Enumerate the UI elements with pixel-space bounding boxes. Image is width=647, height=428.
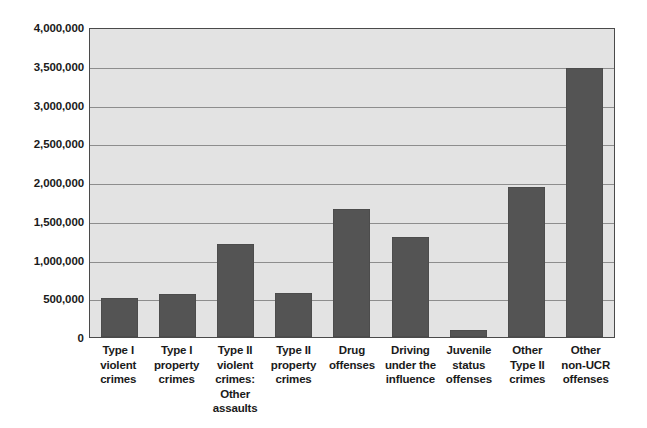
x-axis-category-labels: Type I violent crimesType I property cri… xyxy=(89,343,615,416)
bar-chart: 500,0001,000,0001,500,0002,000,0002,500,… xyxy=(0,0,647,428)
y-tick-label: 2,000,000 xyxy=(0,177,84,189)
y-tick-label: 3,500,000 xyxy=(0,61,84,73)
bar[interactable] xyxy=(159,294,196,337)
bars-layer xyxy=(90,29,614,337)
bar[interactable] xyxy=(217,244,254,337)
x-axis-tick-label: Type II violent crimes: Other assaults xyxy=(206,343,264,416)
y-tick-label: 1,000,000 xyxy=(0,255,84,267)
bar-slot xyxy=(439,29,497,337)
x-axis-tick-label: Other non-UCR offenses xyxy=(557,343,615,387)
bar[interactable] xyxy=(275,293,312,337)
x-axis-tick-label: Other Type II crimes xyxy=(498,343,556,387)
bar[interactable] xyxy=(450,330,487,337)
bar-slot xyxy=(323,29,381,337)
bar[interactable] xyxy=(101,298,138,337)
bar-slot xyxy=(90,29,148,337)
y-tick-label: 1,500,000 xyxy=(0,216,84,228)
x-axis-tick-label: Type I property crimes xyxy=(147,343,205,387)
bar-slot xyxy=(148,29,206,337)
plot-area xyxy=(89,28,615,338)
y-tick-label: 4,000,000 xyxy=(0,22,84,34)
bar[interactable] xyxy=(508,187,545,337)
x-axis-tick-label: Driving under the influence xyxy=(381,343,439,387)
y-tick-zero: 0 xyxy=(0,332,84,344)
bar[interactable] xyxy=(566,68,603,337)
y-axis: 500,0001,000,0001,500,0002,000,0002,500,… xyxy=(0,0,84,428)
bar-slot xyxy=(498,29,556,337)
x-axis-tick-label: Drug offenses xyxy=(323,343,381,372)
y-tick-label: 500,000 xyxy=(0,293,84,305)
bar-slot xyxy=(265,29,323,337)
bar-slot xyxy=(381,29,439,337)
x-axis-tick-label: Juvenile status offenses xyxy=(440,343,498,387)
x-axis-tick-label: Type II property crimes xyxy=(264,343,322,387)
bar[interactable] xyxy=(392,237,429,337)
y-tick-label: 2,500,000 xyxy=(0,138,84,150)
y-tick-label: 3,000,000 xyxy=(0,100,84,112)
x-axis-tick-label: Type I violent crimes xyxy=(89,343,147,387)
bar-slot xyxy=(556,29,614,337)
bar-slot xyxy=(206,29,264,337)
bar[interactable] xyxy=(333,209,370,337)
